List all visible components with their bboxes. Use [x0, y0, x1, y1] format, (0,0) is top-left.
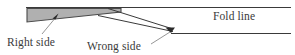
fold-taper-lower-line	[98, 16, 173, 32]
label-fold-line: Fold line	[213, 10, 255, 22]
fabric-wedge-shape	[27, 9, 121, 23]
fabric-fold-diagram: Fold line Right side Wrong side	[0, 0, 295, 55]
label-wrong-side: Wrong side	[87, 40, 141, 52]
wrong-side-leader-line	[151, 32, 170, 44]
fold-taper-upper-line	[108, 9, 173, 30]
label-right-side: Right side	[7, 36, 55, 48]
